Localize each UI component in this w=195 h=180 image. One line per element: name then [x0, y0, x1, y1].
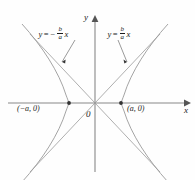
eqn-left-fraction: b a	[57, 26, 63, 41]
eqn-left-sign: −	[50, 29, 57, 39]
origin-label: 0	[86, 110, 91, 119]
hyperbola-left-branch	[22, 24, 69, 180]
hyperbola-plot	[0, 0, 195, 180]
leader-right	[118, 40, 127, 64]
y-axis	[92, 15, 99, 172]
y-axis-label: y	[84, 13, 88, 22]
eqn-right-variable: x	[126, 29, 131, 39]
vertex-right-dot	[119, 101, 123, 105]
eqn-right-denominator: a	[120, 33, 126, 41]
x-axis-label: x	[184, 106, 188, 115]
eqn-right-fraction: b a	[120, 26, 126, 41]
eqn-left-denominator: a	[57, 33, 63, 41]
hyperbola-figure: y x 0 (−a, 0) (a, 0) y = − b a x y = b a…	[0, 0, 195, 180]
leader-left	[62, 40, 75, 63]
vertex-right-label: (a, 0)	[127, 105, 144, 113]
asymptote-negative-equation: y = − b a x	[38, 26, 69, 41]
asymptote-positive-equation: y = b a x	[107, 26, 131, 41]
vertex-left-label: (−a, 0)	[17, 105, 40, 113]
vertex-left-dot	[67, 101, 71, 105]
hyperbola-right-branch	[121, 24, 168, 180]
eqn-right-numerator: b	[120, 26, 126, 33]
eqn-right-equals: =	[112, 29, 119, 39]
eqn-left-variable: x	[64, 29, 69, 39]
eqn-left-numerator: b	[57, 26, 63, 33]
eqn-left-equals: =	[43, 29, 50, 39]
